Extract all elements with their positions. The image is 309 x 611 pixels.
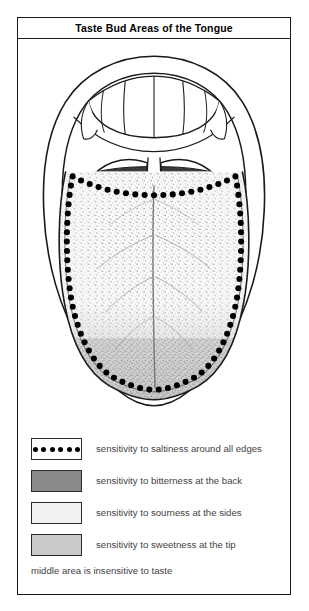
legend-swatch-bitterness [31,470,82,492]
papilla-dot [238,239,244,245]
legend-label-saltiness: sensitivity to saltiness around all edge… [96,444,262,454]
papilla-dot [105,187,111,193]
legend-footnote: middle area is insensitive to taste [31,565,278,576]
legend-label-bitterness: sensitivity to bitterness at the back [96,476,242,486]
papilla-dot [91,355,97,361]
legend-swatch-sweetness [31,534,82,556]
papilla-dot [128,382,134,388]
papilla-dot [65,267,71,273]
swatch-dot [33,447,38,452]
papilla-dot [230,313,236,319]
papilla-dot [68,295,74,301]
papilla-dot [220,339,226,345]
swatch-dot [58,447,63,452]
legend-item-sweetness: sensitivity to sweetness at the tip [31,533,278,557]
page-title: Taste Bud Areas of the Tongue [75,22,233,34]
papilla-dot [238,248,244,254]
papilla-dot [64,239,70,245]
papilla-dot [75,322,81,328]
figure-title-bar: Taste Bud Areas of the Tongue [18,18,290,39]
papilla-dot [97,363,103,369]
papilla-dot [227,322,233,328]
papilla-dot [67,192,73,198]
papilla-dot [66,201,72,207]
papilla-dot [235,192,241,198]
papilla-dot [238,220,244,226]
papilla-dot [66,276,72,282]
legend-item-saltiness: sensitivity to saltiness around all edge… [31,437,278,461]
papilla-dot [103,369,109,375]
papilla-dot [70,173,76,179]
papilla-dot [146,387,152,393]
papilla-dot [232,304,238,310]
papilla-dot [170,191,176,197]
mouth-diagram [18,39,290,423]
papilla-dot [237,267,243,273]
papilla-dot [216,348,222,354]
legend-item-bitterness: sensitivity to bitterness at the back [31,469,278,493]
legend-label-sweetness: sensitivity to sweetness at the tip [96,540,236,550]
papilla-dot [160,192,166,198]
papilla-dot [197,187,203,193]
papilla-dot [165,385,171,391]
papilla-dot [132,191,138,197]
papilla-dot [123,190,129,196]
papilla-dot [238,229,244,235]
papilla-dot [224,177,230,183]
papilla-dot [72,313,78,319]
papilla-dot [215,181,221,187]
papilla-dot [65,211,71,217]
papilla-dot [64,257,70,263]
swatch-dot [67,447,72,452]
legend-item-sourness: sensitivity to sourness at the sides [31,501,278,525]
papilla-dot [235,285,241,291]
papilla-dot [224,331,230,337]
legend-swatch-sourness [31,502,82,524]
papilla-dot [232,173,238,179]
papilla-dot [237,211,243,217]
papilla-dot [96,184,102,190]
papilla-dot [78,331,84,337]
papilla-dot [234,183,240,189]
legend: sensitivity to saltiness around all edge… [18,423,290,595]
papilla-dot [179,190,185,196]
papilla-dot [183,379,189,385]
papilla-dot [205,363,211,369]
figure-frame: Taste Bud Areas of the Tongue [17,17,291,595]
papilla-dot [64,229,70,235]
papilla-dot [87,181,93,187]
papilla-dot [211,355,217,361]
papilla-dot [151,192,157,198]
papilla-dot [119,379,125,385]
papilla-dot [174,382,180,388]
papilla-dot [64,220,70,226]
swatch-dot [41,447,46,452]
papilla-dot [238,257,244,263]
saltiness-dots-icon [32,439,81,459]
papilla-dot [78,177,84,183]
papilla-dot [68,183,74,189]
papilla-dot [114,189,120,195]
legend-swatch-saltiness [31,438,82,460]
papilla-dot [191,375,197,381]
mouth-anatomy-svg [18,39,290,423]
papilla-dot [206,184,212,190]
papilla-dot [70,304,76,310]
legend-label-sourness: sensitivity to sourness at the sides [96,508,242,518]
papilla-dot [236,276,242,282]
papilla-dot [236,201,242,207]
papilla-dot [234,295,240,301]
papilla-dot [142,192,148,198]
swatch-dot [50,447,55,452]
papilla-dot [156,387,162,393]
papilla-dot [188,189,194,195]
papilla-dot [111,375,117,381]
papilla-dot [199,369,205,375]
swatch-dot [75,447,80,452]
papilla-dot [64,248,70,254]
papilla-dot [86,348,92,354]
papilla-dot [82,339,88,345]
papilla-dot [67,285,73,291]
papilla-dot [137,385,143,391]
